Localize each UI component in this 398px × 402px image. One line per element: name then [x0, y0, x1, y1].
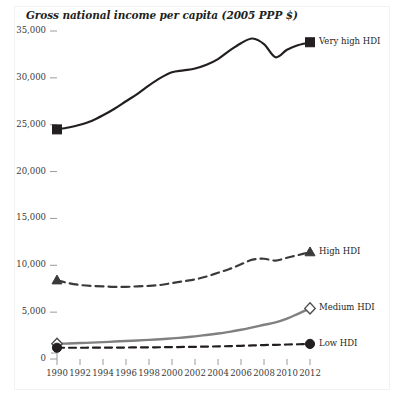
chart-figure: Gross national income per capita (2005 P… — [0, 0, 398, 402]
marker-end-low-hdi — [305, 339, 314, 348]
series-line-high-hdi — [57, 252, 310, 287]
marker-end-medium-hdi — [305, 303, 315, 314]
marker-end-high-hdi — [305, 247, 315, 256]
axis-origin-corner — [51, 353, 57, 359]
legend-label-low-hdi: Low HDI — [319, 338, 357, 348]
y-axis-tick-label: 25,000 — [0, 119, 46, 129]
y-axis-tick-label: 15,000 — [0, 212, 46, 222]
legend-label-high-hdi: High HDI — [319, 246, 360, 256]
series-line-medium-hdi — [57, 308, 310, 343]
marker-start-low-hdi — [52, 343, 61, 352]
legend-label-medium-hdi: Medium HDI — [319, 302, 375, 312]
y-axis-tick-label: 5,000 — [0, 306, 46, 316]
y-axis-tick-label: 20,000 — [0, 166, 46, 176]
marker-start-very-high-hdi — [53, 125, 62, 134]
series-line-very-high-hdi — [57, 38, 310, 129]
marker-start-high-hdi — [52, 275, 62, 284]
marker-end-very-high-hdi — [306, 38, 315, 47]
series-line-low-hdi — [57, 344, 310, 348]
y-axis-tick-label: 35,000 — [0, 25, 46, 35]
legend-label-very-high-hdi: Very high HDI — [319, 36, 380, 46]
y-axis-tick-label: 10,000 — [0, 259, 46, 269]
x-axis-tick-label: 2012 — [293, 368, 327, 378]
y-axis-tick-label: 0 — [0, 353, 46, 363]
y-axis-tick-label: 30,000 — [0, 72, 46, 82]
